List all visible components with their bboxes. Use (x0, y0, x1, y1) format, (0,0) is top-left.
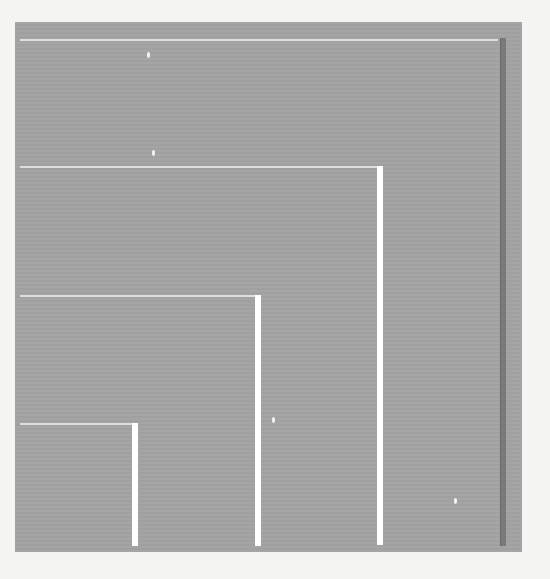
gray-panel (15, 22, 522, 552)
speck (152, 150, 155, 156)
corner-2-vertical-bar (255, 295, 261, 546)
speck (454, 498, 457, 504)
corner-3-horizontal-line (20, 423, 133, 425)
speck (272, 417, 275, 423)
corner-2-horizontal-line (20, 295, 256, 297)
speck (147, 52, 150, 58)
right-dark-bar (500, 38, 506, 546)
corner-1-vertical-bar (377, 166, 383, 545)
top-line (20, 39, 498, 41)
corner-3-vertical-bar (132, 423, 138, 546)
corner-1-horizontal-line (20, 166, 378, 168)
